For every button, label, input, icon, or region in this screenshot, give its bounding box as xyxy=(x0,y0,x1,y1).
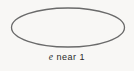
figure-caption: e near 1 xyxy=(0,52,134,63)
ellipse-shape xyxy=(12,8,125,47)
eccentricity-symbol: e xyxy=(49,52,54,62)
caption-text: near 1 xyxy=(57,52,86,62)
ellipse-figure: e near 1 xyxy=(0,0,134,71)
